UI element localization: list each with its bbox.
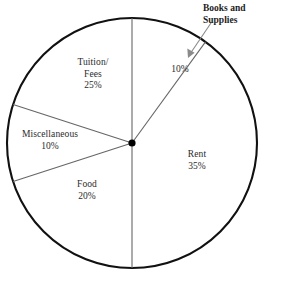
- slice-value-tuition: 25%: [56, 80, 130, 92]
- slice-label-rent: Rent 35%: [160, 149, 234, 172]
- slice-label-tuition-line2: Fees: [56, 69, 130, 81]
- slice-label-food: Food 20%: [50, 179, 124, 202]
- annotation-books-line2: Supplies: [203, 15, 283, 27]
- slice-value-food: 20%: [50, 191, 124, 203]
- slice-value-miscellaneous: 10%: [2, 141, 98, 153]
- annotation-books-line1: Books and: [203, 3, 283, 15]
- annotation-books-and-supplies: Books and Supplies: [203, 3, 283, 26]
- slice-label-food-name: Food: [50, 179, 124, 191]
- slice-label-miscellaneous-name: Miscellaneous: [2, 129, 98, 141]
- pie-center-dot: [128, 139, 135, 146]
- pie-chart: Tuition/ Fees 25% Miscellaneous 10% Food…: [0, 0, 283, 281]
- slice-label-tuition-fees: Tuition/ Fees 25%: [56, 57, 130, 92]
- slice-label-tuition-line1: Tuition/: [56, 57, 130, 69]
- slice-value-books-and-supplies: 10%: [150, 64, 210, 76]
- slice-label-miscellaneous: Miscellaneous 10%: [2, 129, 98, 152]
- slice-label-rent-name: Rent: [160, 149, 234, 161]
- slice-value-rent: 35%: [160, 161, 234, 173]
